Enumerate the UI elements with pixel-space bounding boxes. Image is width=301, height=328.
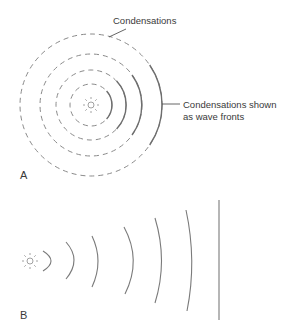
condensation-circle-1 bbox=[70, 84, 112, 126]
wave-front-b-1 bbox=[43, 251, 51, 271]
condensation-circle-2 bbox=[56, 70, 126, 140]
diagram-canvas bbox=[0, 0, 301, 328]
wave-front-arc-4 bbox=[150, 65, 162, 145]
sun-icon bbox=[22, 253, 38, 269]
panel-label-a: A bbox=[20, 169, 27, 181]
wave-fronts-label-line2: as wave fronts bbox=[183, 111, 244, 123]
wave-front-arc-3 bbox=[132, 75, 142, 135]
wave-front-b-3 bbox=[92, 236, 98, 287]
panel-a-dashed-circles bbox=[20, 34, 162, 176]
panel-label-b: B bbox=[20, 309, 27, 321]
condensations-leader-line bbox=[109, 29, 126, 37]
wave-front-b-6 bbox=[186, 210, 192, 311]
sun-icon bbox=[83, 97, 99, 113]
condensation-circle-4 bbox=[20, 34, 162, 176]
wave-fronts-label-line1: Condensations shown bbox=[183, 99, 276, 111]
condensations-label: Condensations bbox=[113, 15, 176, 27]
wave-front-arc-1 bbox=[107, 91, 112, 119]
wave-front-b-5 bbox=[155, 218, 162, 303]
panel-a-wave-fronts bbox=[107, 65, 162, 145]
wave-front-b-4 bbox=[124, 227, 133, 294]
wave-front-b-2 bbox=[66, 242, 74, 279]
wave-front-arc-2 bbox=[117, 81, 127, 129]
panel-b-wave-fronts bbox=[43, 200, 219, 320]
